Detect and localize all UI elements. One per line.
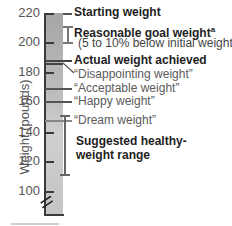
footnote-marker: a [211,25,215,34]
tick-200 [45,42,54,44]
disappointing-weight-label: “Disappointing weight” [74,68,193,81]
actual-weight-line-2 [45,63,63,65]
healthy-range-label-line2: weight range [76,149,150,162]
happy-weight-label: “Happy weight” [74,95,155,108]
tick-label-200: 200 [6,35,40,49]
acceptable-weight-line [45,88,72,90]
tick-label-100: 100 [6,184,40,198]
starting-weight-label: Starting weight [74,6,161,19]
footnote-divider [11,223,59,225]
tick-label-220: 220 [6,6,40,20]
healthy-bracket-cap-bottom [60,174,70,176]
actual-weight-label: Actual weight achieved [74,54,207,67]
goal-bracket-cap-bottom [63,42,73,44]
tick-label-180: 180 [6,65,40,79]
tick-label-160: 160 [6,94,40,108]
tick-label-120: 120 [6,154,40,168]
baseline [44,214,64,216]
tick-100 [45,191,54,193]
tick-label-140: 140 [6,125,40,139]
goal-bracket-cap-top [63,26,73,28]
tick-180 [45,72,54,74]
dream-weight-line [45,120,72,122]
goal-weight-note: (5 to 10% below initial weight) [78,37,232,50]
dream-weight-label: “Dream weight” [74,114,156,127]
tick-220 [45,13,54,15]
tick-120 [45,161,54,163]
tick-140 [45,132,54,134]
healthy-range-label-line1: Suggested healthy- [76,135,187,148]
healthy-bracket-cap-top [60,115,70,117]
healthy-range-bracket [64,115,66,175]
happy-weight-line [45,101,72,103]
goal-weight-bracket [67,26,69,43]
starting-weight-leader [63,13,72,15]
